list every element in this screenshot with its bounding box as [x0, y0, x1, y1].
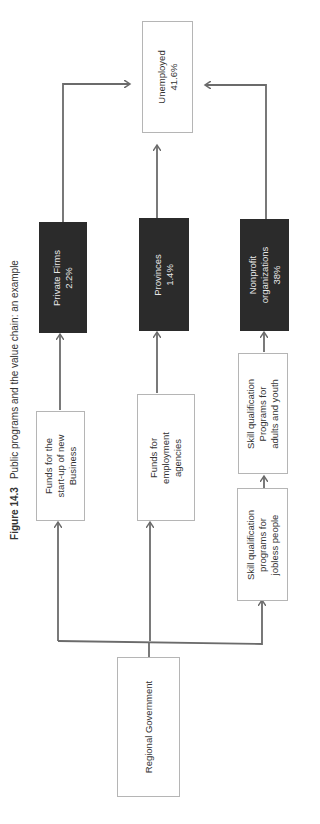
- node-funds-startup: Funds for thestart-up of newBusiness: [36, 411, 85, 521]
- node-label: adults and youth: [269, 378, 281, 448]
- node-regional-government: Regional Government: [117, 657, 180, 797]
- node-skill-adults-youth: Skill qualificationPrograms foradults an…: [238, 353, 288, 474]
- node-label: Funds for: [148, 432, 160, 484]
- node-label: jobless people: [269, 509, 281, 579]
- node-provinces: Provinces1.4%: [139, 218, 189, 331]
- node-label: Business: [67, 435, 79, 498]
- node-label: Provinces: [152, 254, 164, 296]
- node-value: 2.2%: [63, 250, 75, 306]
- node-skill-jobless: Skill qualificationprograms forjobless p…: [237, 488, 288, 601]
- node-label: Regional Government: [143, 681, 155, 773]
- node-label: Skill qualification: [245, 378, 257, 448]
- node-label: programs for: [257, 509, 269, 579]
- node-label: Unemployed: [156, 50, 168, 103]
- node-label: Private Firms: [51, 250, 63, 306]
- node-label: Programs for: [257, 378, 269, 448]
- node-label: Skill qualification: [245, 509, 257, 579]
- node-label: agencies: [172, 432, 184, 484]
- node-label: start-up of new: [55, 435, 67, 498]
- node-label: organizations: [259, 247, 271, 304]
- node-label: employment: [160, 432, 172, 484]
- node-value: 41.6%: [168, 50, 180, 103]
- node-unemployed: Unemployed41.6%: [142, 21, 193, 133]
- node-nonprofit: Nonprofitorganizations38%: [240, 219, 289, 331]
- node-private-firms: Private Firms2.2%: [39, 222, 87, 333]
- node-value: 38%: [271, 247, 283, 304]
- node-value: 1.4%: [164, 254, 176, 296]
- node-label: Nonprofit: [247, 247, 259, 304]
- node-label: Funds for the: [43, 435, 55, 498]
- node-funds-employment: Funds foremploymentagencies: [137, 394, 195, 521]
